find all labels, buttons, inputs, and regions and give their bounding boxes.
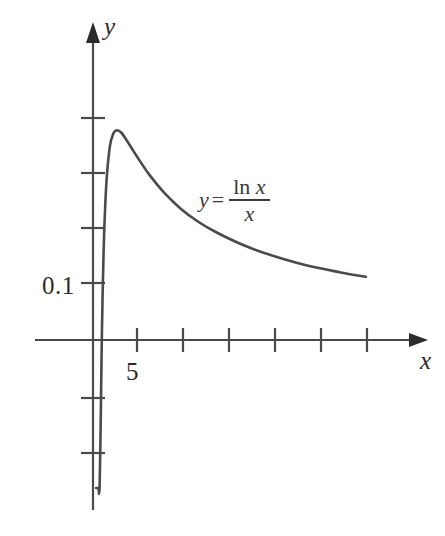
equation-fraction: ln x x xyxy=(229,175,269,225)
x-axis-name-label: x xyxy=(420,348,431,373)
y-axis xyxy=(86,22,100,510)
y-axis-arrowhead xyxy=(86,22,100,43)
equation-denominator: x xyxy=(241,201,259,225)
x-axis-arrowhead xyxy=(409,333,428,347)
equation-equals-sign: = xyxy=(212,187,224,213)
plot-canvas xyxy=(0,0,445,536)
function-graph-figure: y x 0.1 5 y = ln x x xyxy=(0,0,445,536)
equation-lhs: y xyxy=(199,187,209,213)
equation-numerator: ln x xyxy=(229,175,269,199)
x-tick-label-5: 5 xyxy=(126,359,139,384)
y-axis-name-label: y xyxy=(104,14,115,39)
y-tick-label-0.1: 0.1 xyxy=(42,273,75,298)
equation-annotation: y = ln x x xyxy=(199,175,270,225)
equation-ln-operator: ln xyxy=(233,174,250,199)
equation-numerator-variable: x xyxy=(256,174,266,199)
